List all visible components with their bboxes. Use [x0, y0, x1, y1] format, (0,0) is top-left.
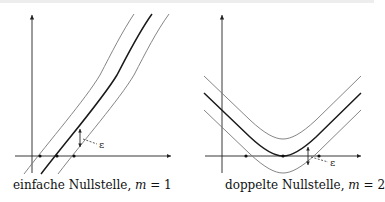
right-caption-text: doppelte Nullstelle, [225, 178, 348, 192]
left-lower-curve [58, 14, 169, 174]
right-caption-eq: = 2 [360, 178, 385, 192]
right-panel-plot: ε [204, 15, 361, 173]
left-root-dot-upper [38, 154, 41, 157]
left-caption-eq: = 1 [146, 178, 171, 192]
right-epsilon-label: ε [330, 157, 335, 168]
right-upper-curve [204, 76, 361, 139]
left-panel-plot: ε [15, 14, 171, 174]
right-lower-curve [204, 110, 361, 173]
right-epsilon-leader [311, 157, 328, 162]
right-root-dot-left [244, 154, 247, 157]
left-upper-curve [24, 14, 134, 174]
right-root-dot-right [317, 154, 320, 157]
left-root-dot-lower [72, 154, 75, 157]
right-caption-var: m [348, 178, 359, 192]
right-caption: doppelte Nullstelle, m = 2 [225, 178, 385, 192]
right-root-dot-double [281, 154, 284, 157]
left-caption-text: einfache Nullstelle, [13, 178, 135, 192]
left-root-dot-main [55, 154, 58, 157]
left-epsilon-label: ε [99, 139, 104, 150]
right-main-curve [204, 93, 361, 156]
left-caption: einfache Nullstelle, m = 1 [13, 178, 172, 192]
left-caption-var: m [135, 178, 146, 192]
left-main-curve [41, 14, 152, 174]
